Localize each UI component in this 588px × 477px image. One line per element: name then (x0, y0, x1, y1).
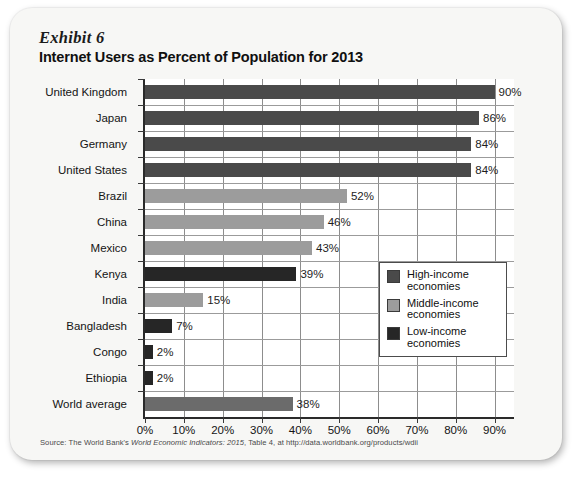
category-label-india: India (102, 293, 127, 307)
legend-swatch-low-income (387, 327, 400, 340)
category-tick (138, 339, 145, 340)
x-tick-label-50%: 50% (328, 424, 351, 436)
legend-label-low-income: Low-incomeeconomies (407, 326, 466, 350)
legend-item-high-income: High-incomeeconomies (387, 269, 500, 293)
bar-value-label: 2% (157, 345, 174, 359)
category-tick (138, 313, 145, 314)
source-note: Source: The World Bank's World Economic … (40, 438, 418, 447)
bar-value-label: 90% (499, 85, 522, 99)
gridline-70% (417, 79, 418, 417)
bar-value-label: 86% (483, 111, 506, 125)
bar-value-label: 84% (475, 137, 498, 151)
category-axis-labels: United KingdomJapanGermanyUnited StatesB… (10, 79, 137, 417)
x-tick-mark (378, 417, 379, 423)
row-separator (145, 391, 514, 392)
row-separator (145, 209, 514, 210)
exhibit-page: Exhibit 6 Internet Users as Percent of P… (0, 0, 588, 477)
bar-value-label: 84% (475, 163, 498, 177)
category-label-united-states: United States (58, 163, 127, 177)
legend-label-middle-income: Middle-incomeeconomies (407, 298, 479, 322)
chart-title: Internet Users as Percent of Population … (39, 49, 363, 65)
bar-germany (145, 137, 471, 151)
bar-united-states (145, 163, 471, 177)
row-separator (145, 235, 514, 236)
category-tick (138, 287, 145, 288)
x-tick-label-90%: 90% (483, 424, 506, 436)
row-separator (145, 183, 514, 184)
bar-congo (145, 345, 153, 359)
category-label-ethiopia: Ethiopia (85, 371, 127, 385)
bar-india (145, 293, 203, 307)
bar-value-label: 39% (300, 267, 323, 281)
bar-value-label: 43% (316, 241, 339, 255)
row-separator (145, 365, 514, 366)
bar-japan (145, 111, 479, 125)
exhibit-card: Exhibit 6 Internet Users as Percent of P… (10, 8, 562, 460)
x-tick-label-0%: 0% (137, 424, 154, 436)
x-tick-mark (495, 417, 496, 423)
x-tick-mark (184, 417, 185, 423)
gridline-80% (456, 79, 457, 417)
source-suffix: , Table 4, at http://data.worldbank.org/… (244, 438, 418, 447)
legend-label-high-income: High-incomeeconomies (407, 269, 469, 293)
x-tick-label-30%: 30% (250, 424, 273, 436)
category-tick (138, 261, 145, 262)
bar-mexico (145, 241, 312, 255)
bar-kenya (145, 267, 296, 281)
x-tick-label-10%: 10% (172, 424, 195, 436)
category-tick (138, 157, 145, 158)
bar-bangladesh (145, 319, 172, 333)
category-label-japan: Japan (96, 111, 127, 125)
x-tick-mark (145, 417, 146, 423)
bar-world-average (145, 397, 293, 411)
bar-value-label: 52% (351, 189, 374, 203)
legend-swatch-high-income (387, 270, 400, 283)
x-tick-label-80%: 80% (444, 424, 467, 436)
x-tick-label-60%: 60% (367, 424, 390, 436)
exhibit-label: Exhibit 6 (39, 28, 105, 48)
bar-united-kingdom (145, 85, 495, 99)
x-tick-mark (417, 417, 418, 423)
x-tick-mark (223, 417, 224, 423)
x-tick-mark (339, 417, 340, 423)
category-label-congo: Congo (93, 345, 127, 359)
legend-label-line2: economies (407, 309, 479, 321)
category-tick (138, 183, 145, 184)
category-label-bangladesh: Bangladesh (66, 319, 127, 333)
category-label-china: China (97, 215, 127, 229)
x-tick-label-70%: 70% (405, 424, 428, 436)
x-tick-mark (456, 417, 457, 423)
category-tick (138, 209, 145, 210)
category-tick (138, 391, 145, 392)
category-tick (138, 235, 145, 236)
legend-item-middle-income: Middle-incomeeconomies (387, 298, 500, 322)
source-italic-title: World Economic Indicators: 2015 (131, 438, 244, 447)
x-tick-label-20%: 20% (211, 424, 234, 436)
bar-value-label: 46% (328, 215, 351, 229)
category-label-kenya: Kenya (94, 267, 127, 281)
source-prefix: Source: The World Bank's (40, 438, 131, 447)
chart-plot-area: 90%86%84%84%52%46%43%39%15%7%2%2%38% (143, 79, 514, 419)
row-separator (145, 105, 514, 106)
category-label-world-average: World average (52, 397, 127, 411)
legend-label-line2: economies (407, 281, 469, 293)
chart-legend: High-incomeeconomiesMiddle-incomeeconomi… (379, 262, 507, 357)
category-tick (138, 105, 145, 106)
x-tick-mark (300, 417, 301, 423)
row-separator (145, 157, 514, 158)
x-tick-label-40%: 40% (289, 424, 312, 436)
legend-label-line2: economies (407, 338, 466, 350)
category-label-mexico: Mexico (91, 241, 127, 255)
legend-item-low-income: Low-incomeeconomies (387, 326, 500, 350)
bar-brazil (145, 189, 347, 203)
category-label-brazil: Brazil (98, 189, 127, 203)
gridline-60% (378, 79, 379, 417)
category-tick (138, 365, 145, 366)
bar-value-label: 2% (157, 371, 174, 385)
bar-value-label: 15% (207, 293, 230, 307)
gridline-50% (339, 79, 340, 417)
category-tick (138, 79, 145, 80)
row-separator (145, 131, 514, 132)
gridline-90% (495, 79, 496, 417)
x-tick-mark (262, 417, 263, 423)
